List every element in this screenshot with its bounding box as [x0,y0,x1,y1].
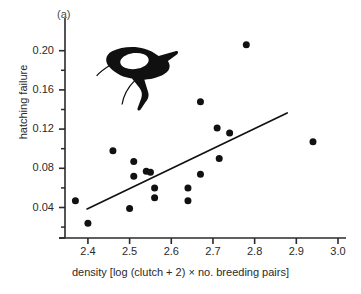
x-tick-label: 2.9 [281,245,311,257]
regression-line [87,113,287,209]
data-point [72,197,79,204]
data-point [151,194,158,201]
data-point [84,220,91,227]
data-point [216,155,223,162]
data-point [151,184,158,191]
data-point [130,173,137,180]
bird-silhouette-icon [97,47,178,111]
data-point [197,171,204,178]
data-point [126,205,133,212]
x-tick-label: 2.5 [115,245,145,257]
data-point [243,41,250,48]
data-point [184,197,191,204]
data-point [309,138,316,145]
data-point [109,147,116,154]
data-point [197,98,204,105]
data-point [184,184,191,191]
figure-panel-a: (a) hatching failure density [log (clutc… [0,0,361,294]
x-tick-label: 2.7 [198,245,228,257]
x-tick-label: 2.6 [156,245,186,257]
data-point [130,158,137,165]
x-tick-label: 2.4 [73,245,103,257]
data-point [226,130,233,137]
x-tick-label: 2.8 [240,245,270,257]
x-tick-label: 3.0 [323,245,353,257]
data-point [147,169,154,176]
data-point [214,125,221,132]
